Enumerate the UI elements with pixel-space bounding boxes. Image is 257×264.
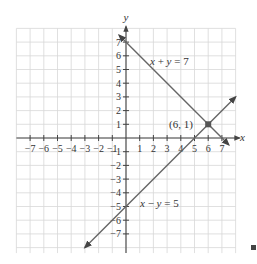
line2-label: x − y = 5 [139,197,179,209]
axes [16,26,239,253]
y-axis-label: y [123,11,129,23]
x-tick-label: −5 [52,143,63,154]
intersection-point-marker [205,121,211,127]
y-tick-label: 3 [116,91,121,102]
x-tick-label: −6 [38,143,49,154]
x-tick-label: 2 [151,143,156,154]
y-tick-label: −1 [110,146,121,157]
x-tick-label: 1 [137,143,142,154]
y-tick-label: 7 [116,37,121,48]
x-tick-label: −2 [93,143,104,154]
x-tick-label: 6 [206,143,211,154]
y-tick-label: 5 [116,64,121,75]
x-tick-label: 3 [165,143,170,154]
y-tick-label: 1 [116,119,121,130]
y-tick-label: −7 [110,228,121,239]
y-tick-label: −2 [110,160,121,171]
y-tick-label: 2 [116,105,121,116]
end-of-proof-icon [251,245,256,250]
y-tick-label: −5 [110,201,121,212]
y-tick-label: −4 [110,187,121,198]
x-tick-label: −4 [66,143,77,154]
x-tick-label: 7 [219,143,224,154]
x-tick-label: −3 [80,143,91,154]
y-tick-label: 6 [116,50,121,61]
y-tick-label: −3 [110,174,121,185]
line1-label: x + y = 7 [149,55,189,67]
x-axis-label: x [239,131,245,143]
coordinate-plane: −7−6−5−4−3−2−11234567−7−6−5−4−3−2−112345… [0,0,257,264]
equation-lines [85,35,236,247]
x-tick-label: 5 [192,143,197,154]
y-tick-label: 4 [116,78,121,89]
line-2 [85,97,236,248]
x-tick-label: −7 [25,143,36,154]
intersection-label: (6, 1) [169,118,193,131]
